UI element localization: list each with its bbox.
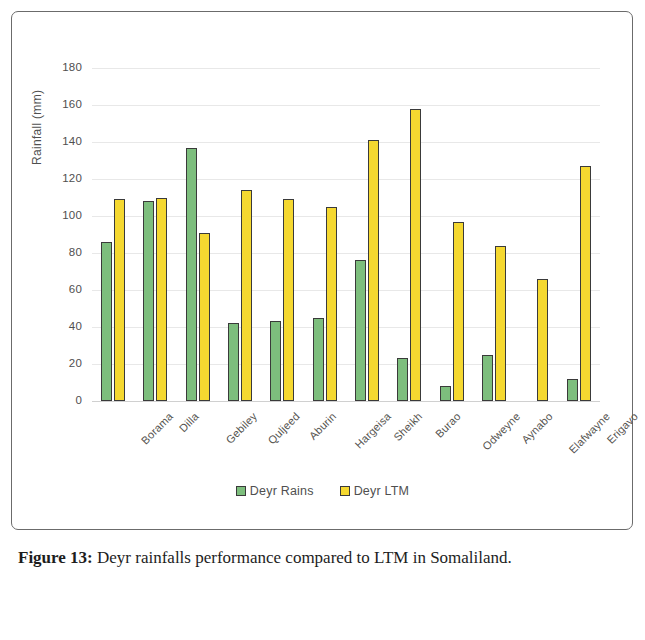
legend-label: Deyr Rains xyxy=(250,484,314,498)
bar-deyr-rains xyxy=(397,358,408,401)
bar-deyr-rains xyxy=(355,260,366,401)
bar-deyr-ltm xyxy=(495,246,506,401)
x-axis-tick-label: Odweyne xyxy=(480,410,522,452)
bar-group xyxy=(98,68,134,401)
y-axis-tick-label: 60 xyxy=(42,284,82,296)
bar-deyr-ltm xyxy=(580,166,591,401)
x-axis-tick-label: Aburin xyxy=(306,410,338,442)
bar-deyr-rains xyxy=(567,379,578,401)
bar-group xyxy=(267,68,303,401)
bar-group xyxy=(521,68,557,401)
legend-swatch-icon xyxy=(340,486,350,496)
bar-deyr-ltm xyxy=(537,279,548,401)
bar-deyr-rains xyxy=(440,386,451,401)
figure-caption-label: Figure 13: xyxy=(18,548,93,567)
x-axis-tick-label: Dilla xyxy=(176,410,200,434)
bar-deyr-rains xyxy=(482,355,493,401)
bar-deyr-rains xyxy=(228,323,239,401)
bar-deyr-ltm xyxy=(156,198,167,402)
bar-group xyxy=(479,68,515,401)
legend-label: Deyr LTM xyxy=(354,484,410,498)
y-axis-tick-label: 160 xyxy=(42,99,82,111)
chart-legend: Deyr RainsDeyr LTM xyxy=(0,484,645,498)
x-axis-tick-label: Quljeed xyxy=(266,410,302,446)
legend-swatch-icon xyxy=(236,486,246,496)
legend-item: Deyr LTM xyxy=(340,484,410,498)
bar-deyr-ltm xyxy=(114,199,125,401)
bar-group xyxy=(352,68,388,401)
x-axis-tick-label: Aynabo xyxy=(519,410,555,446)
figure-caption: Figure 13: Deyr rainfalls performance co… xyxy=(18,546,628,570)
bar-deyr-ltm xyxy=(453,222,464,401)
x-axis-tick-label: Elafwayne xyxy=(566,410,612,456)
bar-deyr-rains xyxy=(313,318,324,401)
bar-group xyxy=(183,68,219,401)
bar-deyr-ltm xyxy=(368,140,379,401)
bar-deyr-rains xyxy=(101,242,112,401)
bar-deyr-ltm xyxy=(199,233,210,401)
x-axis-tick-label: Hargeisa xyxy=(352,410,393,451)
figure-caption-text: Deyr rainfalls performance compared to L… xyxy=(93,548,512,567)
bar-deyr-rains xyxy=(186,148,197,401)
gridline xyxy=(92,401,600,402)
y-axis-tick-label: 120 xyxy=(42,173,82,185)
y-axis-tick-label: 20 xyxy=(42,358,82,370)
x-axis-tick-label: Gebiley xyxy=(223,410,259,446)
bar-group xyxy=(140,68,176,401)
legend-item: Deyr Rains xyxy=(236,484,314,498)
bar-deyr-ltm xyxy=(241,190,252,401)
plot-area xyxy=(92,68,600,401)
bar-deyr-ltm xyxy=(326,207,337,401)
y-axis-tick-label: 0 xyxy=(42,395,82,407)
y-axis-tick-label: 100 xyxy=(42,210,82,222)
bar-deyr-ltm xyxy=(283,199,294,401)
bar-deyr-rains xyxy=(270,321,281,401)
y-axis-tick-label: 140 xyxy=(42,136,82,148)
bar-deyr-rains xyxy=(143,201,154,401)
rainfall-bar-chart: Rainfall (mm) 020406080100120140160180 B… xyxy=(0,0,645,530)
x-axis-tick-label: Sheikh xyxy=(391,410,424,443)
x-axis-tick-label: Borama xyxy=(139,410,176,447)
bar-group xyxy=(310,68,346,401)
y-axis-tick-label: 40 xyxy=(42,321,82,333)
y-axis-tick-label: 180 xyxy=(42,62,82,74)
bar-deyr-ltm xyxy=(410,109,421,401)
bar-group xyxy=(437,68,473,401)
bar-group xyxy=(394,68,430,401)
y-axis-tick-label: 80 xyxy=(42,247,82,259)
x-axis-tick-label: Burao xyxy=(432,410,462,440)
bar-group xyxy=(564,68,600,401)
x-axis-tick-labels: BoramaDillaGebileyQuljeedAburinHargeisaS… xyxy=(92,404,600,484)
bar-group xyxy=(225,68,261,401)
